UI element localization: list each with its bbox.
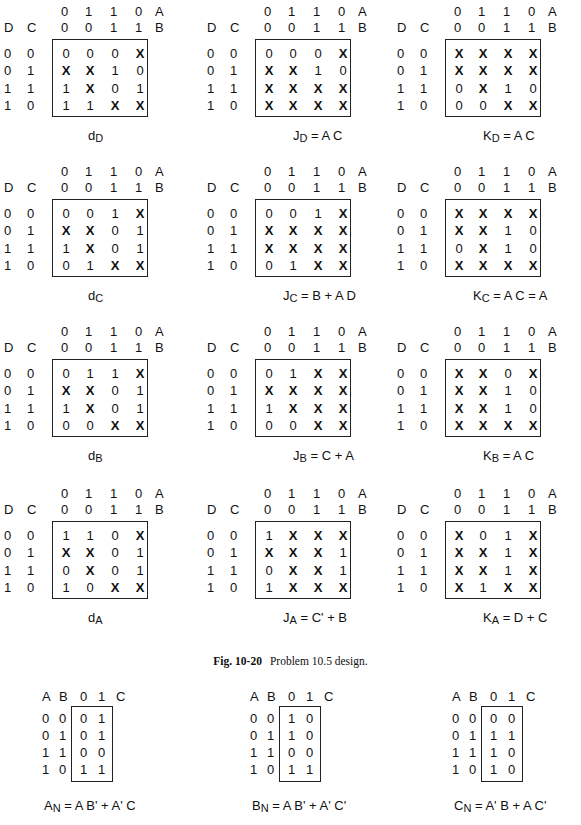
label-c: C bbox=[420, 341, 429, 355]
kmap-cell: X bbox=[474, 207, 492, 221]
small-map-box bbox=[481, 706, 523, 782]
col-a-value: 0 bbox=[528, 165, 535, 179]
kmap-cell: X bbox=[284, 224, 302, 238]
label-d: D bbox=[397, 181, 406, 195]
kmap-cell: 0 bbox=[57, 259, 75, 273]
col-b-value: 0 bbox=[264, 341, 271, 355]
kmap-cell: 1 bbox=[309, 207, 327, 221]
label-b: B bbox=[548, 341, 557, 355]
row-c-value: 0 bbox=[420, 207, 427, 221]
kmap-caption: JA = C' + B bbox=[283, 610, 347, 626]
kmap-cell: X bbox=[57, 64, 75, 78]
col-a-value: 1 bbox=[313, 325, 320, 339]
col-b-value: 1 bbox=[528, 21, 535, 35]
label-d: D bbox=[207, 341, 216, 355]
row-c-value: 0 bbox=[420, 419, 427, 433]
kmap-cell: X bbox=[81, 82, 99, 96]
kmap-cell: 0 bbox=[106, 402, 124, 416]
row-c-value: 0 bbox=[230, 419, 237, 433]
kmap-cell: 1 bbox=[57, 529, 75, 543]
caption-expression: = C + A bbox=[307, 448, 354, 463]
row-d-value: 1 bbox=[4, 581, 11, 595]
kmap-cell: X bbox=[81, 546, 99, 560]
kmap-cell: 0 bbox=[474, 99, 492, 113]
col-b-value: 0 bbox=[288, 341, 295, 355]
row-a-value: 0 bbox=[42, 729, 49, 743]
kmap-cell: 0 bbox=[450, 82, 468, 96]
small-map-cell: 1 bbox=[288, 729, 295, 743]
label-d: D bbox=[207, 503, 216, 517]
col-a-value: 1 bbox=[110, 325, 117, 339]
row-d-value: 0 bbox=[4, 546, 11, 560]
kmap-cell: X bbox=[334, 529, 352, 543]
kmap-cell: X bbox=[106, 419, 124, 433]
kmap-cell: 1 bbox=[309, 64, 327, 78]
row-c-value: 1 bbox=[27, 546, 34, 560]
kmap-cell: X bbox=[131, 419, 149, 433]
row-c-value: 1 bbox=[420, 64, 427, 78]
kmap-cell: X bbox=[334, 367, 352, 381]
kmap-cell: 1 bbox=[57, 99, 75, 113]
kmap-cell: X bbox=[57, 384, 75, 398]
small-map-cell: 1 bbox=[98, 712, 105, 726]
col-b-value: 0 bbox=[478, 503, 485, 517]
kmap-KB: 00101101ABDC00XX0X01XX1011XX1010XXXXKB =… bbox=[393, 320, 581, 470]
kmap-cell: 0 bbox=[106, 82, 124, 96]
kmap-caption: JB = C + A bbox=[293, 448, 354, 464]
kmap-cell: X bbox=[450, 581, 468, 595]
kmap-cell: 0 bbox=[284, 207, 302, 221]
kmap-cell: 1 bbox=[260, 402, 278, 416]
label-d: D bbox=[397, 21, 406, 35]
row-c-value: 1 bbox=[27, 402, 34, 416]
label-c: C bbox=[420, 503, 429, 517]
kmap-cell: 1 bbox=[131, 402, 149, 416]
kmap-cell: 0 bbox=[334, 64, 352, 78]
col-a-value: 0 bbox=[338, 165, 345, 179]
caption-sub: A bbox=[95, 614, 102, 626]
kmap-KD: 00101101ABDC00XXXX01XXXX110X101000XXKD =… bbox=[393, 0, 581, 150]
col-b-value: 1 bbox=[503, 21, 510, 35]
kmap-cell: X bbox=[499, 99, 517, 113]
kmap-cell: X bbox=[474, 259, 492, 273]
row-c-value: 0 bbox=[420, 47, 427, 61]
kmap-cell: X bbox=[499, 259, 517, 273]
kmap-cell: X bbox=[309, 384, 327, 398]
kmap-cell: 1 bbox=[81, 529, 99, 543]
col-a-value: 0 bbox=[338, 5, 345, 19]
caption-expression: = B + A D bbox=[297, 288, 356, 303]
kmap-cell: X bbox=[334, 384, 352, 398]
col-a-value: 0 bbox=[454, 165, 461, 179]
kmap-cell: X bbox=[474, 82, 492, 96]
row-c-value: 1 bbox=[230, 564, 237, 578]
kmap-cell: 0 bbox=[131, 64, 149, 78]
kmap-cell: X bbox=[524, 546, 542, 560]
kmap-cell: X bbox=[334, 207, 352, 221]
kmap-cell: 1 bbox=[131, 564, 149, 578]
kmap-cell: X bbox=[450, 546, 468, 560]
col-a-value: 0 bbox=[528, 5, 535, 19]
kmap-cell: X bbox=[81, 224, 99, 238]
col-a-value: 1 bbox=[503, 5, 510, 19]
kmap-cell: X bbox=[450, 367, 468, 381]
caption-main: C bbox=[454, 798, 463, 813]
row-c-value: 1 bbox=[27, 384, 34, 398]
small-header: B bbox=[59, 690, 68, 704]
kmap-cell: X bbox=[260, 99, 278, 113]
kmap-cell: X bbox=[474, 224, 492, 238]
caption-sub: B bbox=[95, 452, 102, 464]
label-c: C bbox=[230, 181, 239, 195]
caption-expression: = A B' + A' C' bbox=[269, 798, 347, 813]
kmap-caption: KC = A C = A bbox=[473, 288, 547, 304]
col-b-value: 1 bbox=[338, 21, 345, 35]
kmap-cell: X bbox=[309, 419, 327, 433]
kmap-dD: 00101101ABDC00000X01XX10111X011011XXdD bbox=[0, 0, 190, 150]
kmap-cell: X bbox=[284, 546, 302, 560]
row-b-value: 1 bbox=[59, 729, 66, 743]
col-a-value: 0 bbox=[264, 5, 271, 19]
row-d-value: 0 bbox=[397, 529, 404, 543]
col-a-value: 1 bbox=[478, 325, 485, 339]
kmap-cell: X bbox=[450, 384, 468, 398]
label-a: A bbox=[548, 487, 557, 501]
kmap-cell: X bbox=[309, 402, 327, 416]
col-a-value: 1 bbox=[110, 5, 117, 19]
